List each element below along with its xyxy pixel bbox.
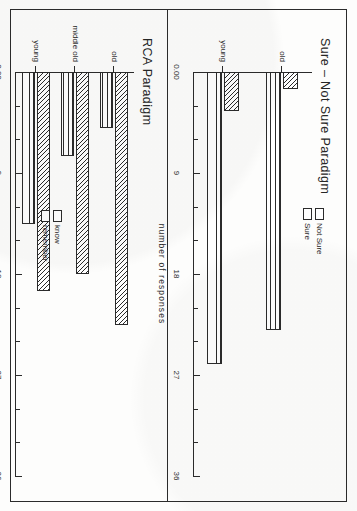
- legend-swatch-lines-icon: [303, 208, 312, 220]
- legend-swatch-lines-icon: [41, 210, 50, 222]
- axis-tick: [15, 476, 22, 477]
- bar-sure: [267, 72, 282, 330]
- axis-minor-tick: [193, 308, 198, 309]
- figure: Sure – Not Sure Paradigm 0.009182736numb…: [0, 0, 357, 511]
- axis-tick-label: 27: [0, 371, 3, 380]
- category-tick: [223, 66, 224, 72]
- axis-tick-label: 27: [172, 371, 181, 380]
- bar-remember: [100, 72, 113, 128]
- bar-remember: [61, 72, 74, 156]
- plot-area-sure-not-sure: 0.009182736number of responsesyoungold: [194, 72, 312, 476]
- axis-minor-tick: [15, 409, 20, 410]
- bar-know: [115, 72, 128, 325]
- legend-item: remember: [41, 210, 50, 261]
- axis-minor-tick: [193, 139, 198, 140]
- bar-remember: [22, 72, 35, 224]
- category-label: young: [31, 40, 40, 62]
- category-label: middle old: [71, 26, 80, 62]
- legend-label: know: [53, 225, 62, 244]
- category-tick: [113, 66, 114, 72]
- axis-minor-tick: [15, 106, 20, 107]
- category-tick: [74, 66, 75, 72]
- axis-tick-label: 36: [172, 472, 181, 481]
- axis-tick-label: 18: [0, 270, 3, 279]
- legend-rca: know remember: [38, 210, 62, 261]
- panel-title-sure-not-sure: Sure – Not Sure Paradigm: [318, 38, 332, 194]
- bar-not-sure: [225, 72, 240, 111]
- axis-tick-label: 9: [0, 171, 3, 175]
- axis-tick: [15, 274, 22, 275]
- legend-swatch-hatch-icon: [315, 208, 324, 220]
- axis-minor-tick: [193, 106, 198, 107]
- legend-item: Not Sure: [315, 208, 324, 255]
- axis-tick-label: 36: [0, 472, 3, 481]
- axis-tick-label: 0.00: [0, 64, 3, 80]
- category-tick: [35, 66, 36, 72]
- category-label: old: [278, 51, 287, 62]
- axis-minor-tick: [193, 442, 198, 443]
- axis-tick-label: 0.00: [172, 64, 181, 80]
- axis-minor-tick: [15, 442, 20, 443]
- axis-minor-tick: [15, 341, 20, 342]
- axis-minor-tick: [15, 207, 20, 208]
- axis-minor-tick: [15, 139, 20, 140]
- axis-tick: [193, 375, 200, 376]
- legend-label: Not Sure: [315, 223, 324, 255]
- legend-label: Sure: [303, 223, 312, 240]
- category-tick: [282, 66, 283, 72]
- panel-title-rca: RCA Paradigm: [140, 38, 154, 125]
- category-label: old: [110, 51, 119, 62]
- panel-sure-not-sure: Sure – Not Sure Paradigm 0.009182736numb…: [168, 10, 346, 501]
- category-label: young: [219, 40, 228, 62]
- axis-minor-tick: [193, 207, 198, 208]
- axis-minor-tick: [193, 341, 198, 342]
- panel-rca: RCA Paradigm 0.009182736number of respon…: [0, 10, 168, 501]
- legend-sure-not-sure: Not Sure Sure: [300, 208, 324, 255]
- axis-minor-tick: [15, 308, 20, 309]
- bar-sure: [208, 72, 223, 364]
- axis-tick: [193, 274, 200, 275]
- bar-not-sure: [284, 72, 299, 89]
- legend-swatch-hatch-icon: [53, 210, 62, 222]
- axis-tick: [193, 72, 200, 73]
- rotated-figure-wrapper: Sure – Not Sure Paradigm 0.009182736numb…: [0, 0, 357, 511]
- axis-tick-label: 9: [172, 171, 181, 175]
- axis-minor-tick: [193, 409, 198, 410]
- axis-tick: [193, 173, 200, 174]
- legend-item: know: [53, 210, 62, 261]
- bar-know: [76, 72, 89, 274]
- plot-area-rca: 0.009182736number of responsesyoungmiddl…: [16, 72, 134, 476]
- axis-tick: [193, 476, 200, 477]
- axis-minor-tick: [193, 240, 198, 241]
- legend-label: remember: [41, 225, 50, 261]
- page-frame: Sure – Not Sure Paradigm 0.009182736numb…: [10, 9, 347, 502]
- axis-tick: [15, 375, 22, 376]
- axis-tick-label: 18: [172, 270, 181, 279]
- axis-minor-tick: [15, 240, 20, 241]
- legend-item: Sure: [303, 208, 312, 255]
